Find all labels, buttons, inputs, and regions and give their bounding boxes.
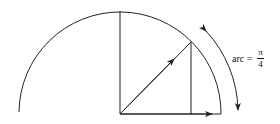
arc-label: arc = xyxy=(232,53,252,64)
radius-arrow xyxy=(120,59,174,114)
arc-length-indicator xyxy=(206,31,238,110)
arc-fraction: π 4 xyxy=(257,48,264,69)
fraction-denominator: 4 xyxy=(258,60,263,69)
fraction-numerator: π xyxy=(258,48,263,57)
